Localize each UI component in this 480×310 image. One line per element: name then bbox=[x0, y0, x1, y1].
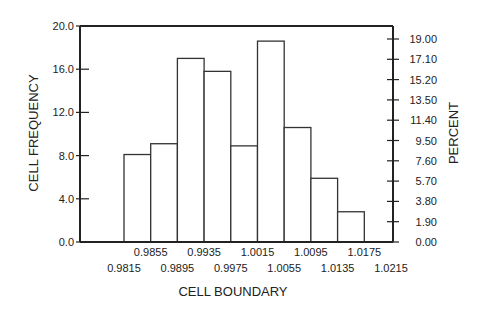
x-tick-label-upper: 1.0095 bbox=[294, 246, 328, 258]
histogram-bar bbox=[177, 58, 204, 242]
histogram-bars bbox=[124, 41, 364, 242]
y2-tick-label: 19.00 bbox=[409, 33, 437, 45]
x-tick-label-lower: 0.9815 bbox=[107, 262, 141, 274]
y2-tick-label: 0.00 bbox=[416, 236, 437, 248]
x-tick-label-lower: 1.0215 bbox=[374, 262, 408, 274]
y-tick-label: 0.0 bbox=[59, 236, 74, 248]
histogram-bar bbox=[311, 178, 338, 242]
x-tick-label-lower: 1.0135 bbox=[321, 262, 355, 274]
y2-axis-ticks: 0.001.903.805.707.609.5011.4013.5015.201… bbox=[387, 33, 437, 248]
x-tick-label-lower: 0.9975 bbox=[214, 262, 248, 274]
x-tick-label-upper: 0.9935 bbox=[187, 246, 221, 258]
y2-tick-label: 7.60 bbox=[416, 155, 437, 167]
y2-tick-label: 1.90 bbox=[416, 216, 437, 228]
histogram-chart: 0.04.08.012.016.020.0 0.001.903.805.707.… bbox=[0, 0, 480, 310]
y2-tick-label: 3.80 bbox=[416, 195, 437, 207]
y2-tick-label: 5.70 bbox=[416, 175, 437, 187]
x-tick-label-lower: 1.0055 bbox=[267, 262, 301, 274]
histogram-bar bbox=[204, 71, 231, 242]
y2-tick-label: 9.50 bbox=[416, 135, 437, 147]
histogram-bar bbox=[258, 41, 285, 242]
x-axis-title: CELL BOUNDARY bbox=[178, 284, 287, 299]
y2-tick-label: 17.10 bbox=[409, 53, 437, 65]
histogram-bar bbox=[231, 146, 258, 242]
x-tick-label-upper: 1.0015 bbox=[241, 246, 275, 258]
histogram-bar bbox=[338, 212, 365, 242]
x-tick-label-lower: 0.9895 bbox=[161, 262, 195, 274]
y2-tick-label: 15.20 bbox=[409, 74, 437, 86]
histogram-bar bbox=[284, 128, 311, 242]
y-tick-label: 20.0 bbox=[53, 20, 74, 32]
y2-tick-label: 13.50 bbox=[409, 94, 437, 106]
y-tick-label: 16.0 bbox=[53, 63, 74, 75]
y2-axis-title: PERCENT bbox=[446, 102, 461, 164]
y2-tick-label: 11.40 bbox=[410, 114, 437, 126]
y-axis-title: CELL FREQUENCY bbox=[26, 74, 41, 192]
x-tick-label-upper: 0.9855 bbox=[134, 246, 168, 258]
y-tick-label: 12.0 bbox=[53, 106, 74, 118]
histogram-bar bbox=[151, 144, 178, 242]
x-tick-label-upper: 1.0175 bbox=[347, 246, 381, 258]
y-tick-label: 4.0 bbox=[59, 193, 74, 205]
y-tick-label: 8.0 bbox=[59, 150, 74, 162]
x-axis-ticks: 0.98150.98950.99751.00551.01351.02150.98… bbox=[107, 246, 408, 274]
y-axis-ticks: 0.04.08.012.016.020.0 bbox=[53, 20, 89, 248]
histogram-bar bbox=[124, 155, 151, 242]
